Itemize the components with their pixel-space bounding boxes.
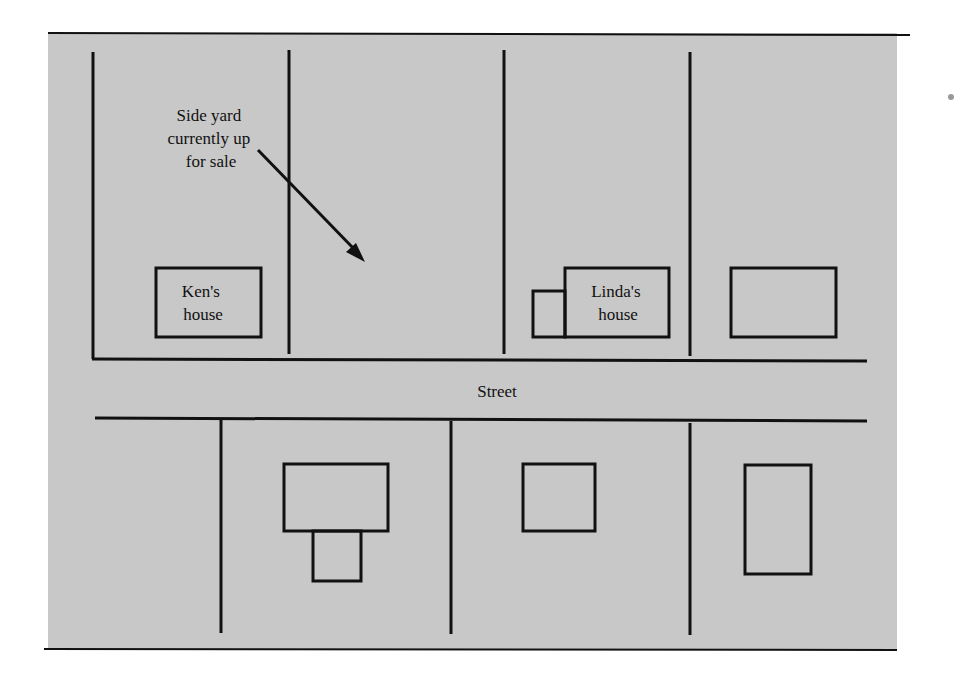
background-panel (48, 33, 897, 649)
bottom-border (44, 649, 897, 650)
street-label: Street (477, 382, 517, 401)
stray-dot (948, 94, 954, 100)
neighborhood-diagram: Side yard currently up for sale Ken's ho… (0, 0, 954, 681)
street-edge-top (92, 359, 867, 361)
